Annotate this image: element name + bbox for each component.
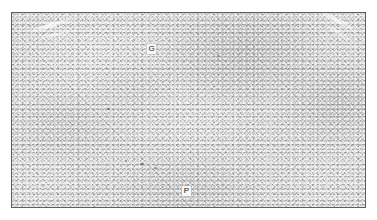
nuclear-speckle-texture-dark bbox=[11, 12, 366, 208]
tissue-debris-speck bbox=[217, 55, 220, 57]
micrograph-figure: G P bbox=[0, 0, 377, 220]
dense-tissue-zones bbox=[12, 13, 365, 207]
section-fold-artifact-top-left-secondary bbox=[36, 29, 76, 40]
tissue-field: G P bbox=[12, 13, 365, 207]
tissue-debris-speck bbox=[107, 108, 110, 110]
pale-tissue-zones bbox=[12, 13, 365, 207]
tissue-fiber-texture bbox=[11, 12, 366, 208]
section-fold-artifact-top-left bbox=[27, 15, 78, 34]
region-label-g: G bbox=[147, 44, 156, 54]
tissue-debris-speck bbox=[154, 167, 157, 169]
nuclear-speckle-texture-light bbox=[11, 12, 366, 208]
section-fold-artifact-top-right bbox=[317, 12, 359, 34]
region-label-p: P bbox=[182, 186, 191, 196]
micrograph-frame: G P bbox=[11, 12, 366, 208]
tissue-debris-speck bbox=[140, 163, 144, 165]
tissue-debris-speck bbox=[125, 160, 127, 162]
section-fold-artifact-top-right-secondary bbox=[323, 22, 353, 43]
